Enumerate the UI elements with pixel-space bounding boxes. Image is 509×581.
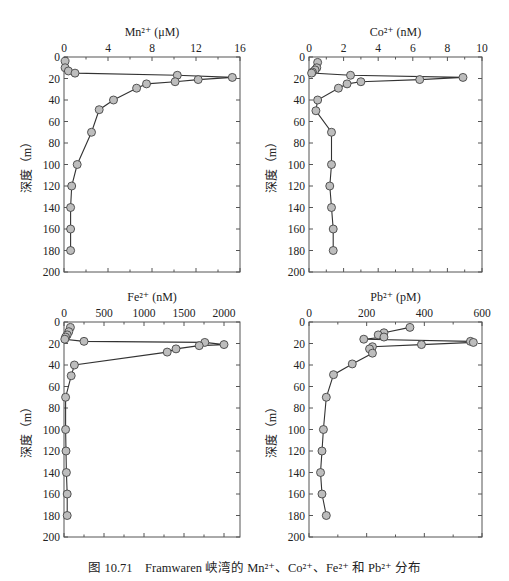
y-tick-label: 20 (294, 338, 306, 350)
data-point (348, 360, 356, 368)
data-point (194, 76, 202, 84)
y-tick-label: 140 (43, 467, 61, 479)
y-tick-label: 180 (43, 510, 61, 522)
data-point (228, 73, 236, 81)
data-point (143, 80, 151, 88)
data-point (68, 182, 76, 190)
data-point (171, 78, 179, 86)
data-point (220, 341, 228, 349)
y-tick-label: 120 (43, 445, 61, 457)
data-point (318, 490, 326, 498)
x-tick-label: 10 (476, 42, 488, 54)
y-tick-label: 20 (49, 338, 61, 350)
data-point (70, 361, 78, 369)
y-axis-title: 深度（m） (19, 401, 34, 458)
y-tick-label: 80 (49, 137, 61, 149)
y-tick-label: 0 (54, 316, 60, 328)
caption-text: Framwaren 峡湾的 Mn²⁺、Co²⁺、Fe²⁺ 和 Pb²⁺ 分布 (145, 561, 421, 575)
data-point (63, 490, 71, 498)
data-point (347, 71, 355, 79)
data-point (343, 80, 351, 88)
y-tick-label: 160 (288, 488, 306, 500)
x-axis-title: Pb²⁺ (pM) (370, 290, 420, 304)
data-point (62, 426, 70, 434)
data-point (73, 161, 81, 169)
data-point (329, 247, 337, 255)
chart-mn: 0481216020406080100120140160180200Mn²⁺ (… (19, 25, 246, 278)
data-point (318, 447, 326, 455)
y-tick-label: 160 (43, 488, 61, 500)
y-tick-label: 140 (43, 202, 61, 214)
x-tick-label: 0 (306, 307, 312, 319)
y-tick-label: 60 (294, 116, 306, 128)
data-point (360, 335, 368, 343)
data-point (322, 393, 330, 401)
data-point (172, 345, 180, 353)
y-tick-label: 80 (49, 402, 61, 414)
x-tick-label: 0 (61, 42, 67, 54)
plot-frame (309, 322, 482, 537)
plot-frame (64, 57, 240, 272)
y-tick-label: 80 (294, 137, 306, 149)
data-point (71, 69, 79, 77)
y-tick-label: 40 (49, 94, 61, 106)
x-tick-label: 8 (445, 42, 451, 54)
data-point (312, 107, 320, 115)
y-tick-label: 200 (43, 266, 61, 278)
profile-line (65, 327, 224, 515)
data-point (67, 225, 75, 233)
data-point (469, 338, 477, 346)
x-tick-label: 400 (416, 307, 434, 319)
data-point (330, 371, 338, 379)
y-tick-label: 140 (288, 467, 306, 479)
data-point (380, 333, 388, 341)
x-axis-title: Co²⁺ (nM) (370, 25, 422, 39)
x-tick-label: 500 (95, 307, 113, 319)
data-point (319, 426, 327, 434)
y-tick-label: 80 (294, 402, 306, 414)
y-tick-label: 120 (288, 180, 306, 192)
y-tick-label: 100 (43, 424, 61, 436)
data-point (317, 469, 325, 477)
data-point (334, 84, 342, 92)
data-point (326, 182, 334, 190)
x-tick-label: 16 (234, 42, 246, 54)
x-tick-label: 200 (358, 307, 376, 319)
y-axis-title: 深度（m） (19, 136, 34, 193)
y-tick-label: 20 (294, 73, 306, 85)
x-axis-title: Fe²⁺ (nM) (127, 290, 177, 304)
y-tick-label: 120 (288, 445, 306, 457)
profile-line (312, 62, 463, 250)
data-point (327, 161, 335, 169)
data-point (308, 69, 316, 77)
data-point (314, 96, 322, 104)
x-tick-label: 600 (473, 307, 491, 319)
data-point (67, 204, 75, 212)
data-point (88, 128, 96, 136)
data-point (417, 341, 425, 349)
data-point (61, 335, 69, 343)
data-point (459, 73, 467, 81)
data-point (62, 469, 70, 477)
y-axis-title: 深度（m） (264, 136, 279, 193)
y-tick-label: 180 (288, 510, 306, 522)
chart-co: 0246810020406080100120140160180200Co²⁺ (… (264, 25, 488, 278)
x-tick-label: 6 (410, 42, 416, 54)
y-tick-label: 60 (49, 381, 61, 393)
data-point (368, 349, 376, 357)
x-tick-label: 2 (341, 42, 347, 54)
y-tick-label: 140 (288, 202, 306, 214)
y-tick-label: 160 (43, 223, 61, 235)
x-axis-title: Mn²⁺ (μM) (125, 25, 180, 39)
data-point (406, 323, 414, 331)
y-tick-label: 200 (43, 531, 61, 543)
x-tick-label: 0 (306, 42, 312, 54)
y-axis-title: 深度（m） (264, 401, 279, 458)
y-tick-label: 100 (288, 424, 306, 436)
y-tick-label: 0 (299, 316, 305, 328)
data-point (62, 393, 70, 401)
y-tick-label: 0 (54, 51, 60, 63)
data-point (416, 76, 424, 84)
profile-line (321, 327, 474, 515)
data-point (80, 337, 88, 345)
